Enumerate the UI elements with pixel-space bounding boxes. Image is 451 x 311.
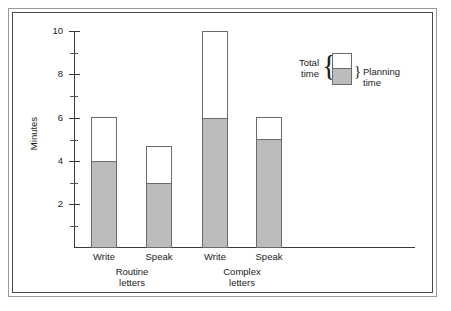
- x-tick-label-routine-speak: Speak: [134, 251, 184, 262]
- bar-complex-speak: [256, 117, 282, 248]
- x-group-label-complex-line2: letters: [216, 278, 268, 289]
- legend-total-line2: time: [286, 68, 319, 79]
- bar-routine-write-planning: [92, 161, 116, 247]
- y-tick-4: [69, 161, 80, 162]
- x-tick-label-complex-write: Write: [190, 251, 240, 262]
- bar-routine-speak-planning: [147, 183, 171, 247]
- y-tick-1: [70, 226, 78, 227]
- y-tick-8: [69, 74, 80, 75]
- y-tick-2: [69, 204, 80, 205]
- y-tick-label-6: 6: [45, 113, 63, 122]
- legend-total-label: Total time: [286, 57, 319, 79]
- x-group-label-routine: Routine letters: [106, 267, 158, 288]
- x-tick-label-complex-speak: Speak: [244, 251, 294, 262]
- x-group-label-complex: Complex letters: [216, 267, 268, 288]
- y-tick-10: [69, 31, 80, 32]
- y-tick-3: [70, 183, 78, 184]
- y-tick-label-4: 4: [45, 156, 63, 165]
- y-tick-6: [69, 118, 80, 119]
- y-axis-tick-labels: 10 8 6 4 2: [45, 0, 63, 311]
- x-axis-line: [74, 247, 415, 248]
- chart-legend: Total time { } Planning time: [286, 52, 416, 96]
- x-group-label-routine-line2: letters: [106, 278, 158, 289]
- chart-page: 10 8 6 4 2 Minutes Write Speak Write Spe…: [0, 0, 451, 311]
- plot-area: 10 8 6 4 2 Minutes Write Speak Write Spe…: [0, 0, 451, 311]
- legend-total-line1: Total: [286, 57, 319, 68]
- y-tick-label-10: 10: [45, 26, 63, 35]
- x-group-label-routine-line1: Routine: [106, 267, 158, 278]
- bar-complex-write-planning: [203, 118, 227, 247]
- bar-routine-speak: [146, 146, 172, 248]
- y-tick-9: [70, 53, 78, 54]
- y-axis-title: Minutes: [28, 99, 39, 169]
- y-tick-7: [70, 96, 78, 97]
- x-tick-label-routine-write: Write: [79, 251, 129, 262]
- legend-planning-line1: Planning: [363, 66, 400, 77]
- legend-right-brace-icon: }: [354, 64, 361, 79]
- x-group-label-complex-line1: Complex: [216, 267, 268, 278]
- legend-planning-label: Planning time: [363, 66, 400, 88]
- bar-complex-write: [202, 31, 228, 248]
- legend-swatch-planning: [333, 68, 351, 84]
- bar-routine-write: [91, 117, 117, 248]
- y-tick-5: [70, 140, 78, 141]
- bar-complex-speak-planning: [257, 139, 281, 247]
- legend-planning-line2: time: [363, 77, 400, 88]
- legend-swatch: [332, 53, 352, 85]
- y-tick-label-2: 2: [45, 199, 63, 208]
- y-tick-label-8: 8: [45, 69, 63, 78]
